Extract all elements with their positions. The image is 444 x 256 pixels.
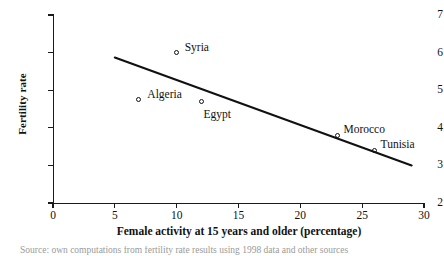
figure-caption: Source: own computations from fertility … xyxy=(20,246,420,256)
trendline xyxy=(115,57,412,165)
